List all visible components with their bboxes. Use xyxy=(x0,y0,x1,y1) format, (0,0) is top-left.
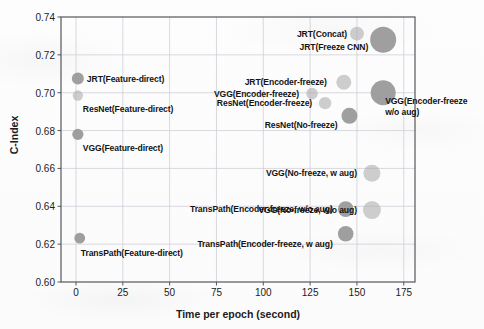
data-point-label: ResNet(No-freeze) xyxy=(265,120,338,130)
data-point-label: TransPath(Feature-direct) xyxy=(81,248,183,258)
data-point-label: VGG(No-freeze, w aug) xyxy=(266,168,357,178)
x-tick-label: 0 xyxy=(73,287,79,298)
data-point-bubble xyxy=(370,27,396,53)
y-tick-label: 0.68 xyxy=(36,125,55,136)
data-point-bubble xyxy=(336,75,351,90)
data-point-label: JRT(Concat) xyxy=(297,29,347,39)
y-axis-label: C-Index xyxy=(8,116,20,155)
x-axis-label: Time per epoch (second) xyxy=(176,308,300,320)
data-point-label-line: w/o aug) xyxy=(385,107,467,118)
data-point-bubble xyxy=(72,129,83,140)
scatter-plot-figure: C-Index Time per epoch (second) 02550751… xyxy=(0,0,484,329)
data-point-bubble xyxy=(72,73,84,85)
data-point-label: VGG(Feature-direct) xyxy=(83,143,163,153)
data-point-label: VGG(Encoder-freezew/o aug) xyxy=(385,96,467,118)
plot-canvas xyxy=(0,0,484,329)
x-tick-label: 150 xyxy=(349,287,366,298)
y-tick-label: 0.66 xyxy=(36,163,55,174)
y-tick-label: 0.64 xyxy=(36,201,55,212)
y-tick-label: 0.74 xyxy=(36,12,55,23)
data-point-bubble xyxy=(319,97,331,109)
data-point-bubble xyxy=(73,90,83,100)
data-point-label: JRT(Freeze CNN) xyxy=(299,42,368,52)
data-point-label: TransPath(Encoder-freeze, w aug) xyxy=(197,239,332,249)
x-tick-label: 100 xyxy=(255,287,272,298)
data-point-bubble xyxy=(341,108,357,124)
data-point-bubble xyxy=(338,226,354,242)
x-tick-label: 175 xyxy=(395,287,412,298)
data-point-bubble xyxy=(74,233,85,244)
data-point-label-line: VGG(Encoder-freeze xyxy=(385,96,467,107)
data-point-label: ResNet(Encoder-freeze) xyxy=(217,98,312,108)
x-tick-label: 125 xyxy=(302,287,319,298)
x-tick-label: 25 xyxy=(117,287,128,298)
data-point-label: TransPath(Encoder-freeze, w/o aug) xyxy=(190,204,333,214)
data-point-bubble xyxy=(363,165,380,182)
y-tick-label: 0.70 xyxy=(36,87,55,98)
y-tick-label: 0.72 xyxy=(36,49,55,60)
data-point-bubble xyxy=(363,201,381,219)
y-tick-label: 0.60 xyxy=(36,277,55,288)
x-tick-label: 50 xyxy=(164,287,175,298)
data-point-label: JRT(Feature-direct) xyxy=(87,74,164,84)
data-point-bubble xyxy=(350,27,364,41)
data-point-label: ResNet(Feature-direct) xyxy=(83,104,173,114)
x-tick-label: 75 xyxy=(211,287,222,298)
y-tick-label: 0.62 xyxy=(36,239,55,250)
data-point-label: JRT(Encoder-freeze) xyxy=(245,77,327,87)
